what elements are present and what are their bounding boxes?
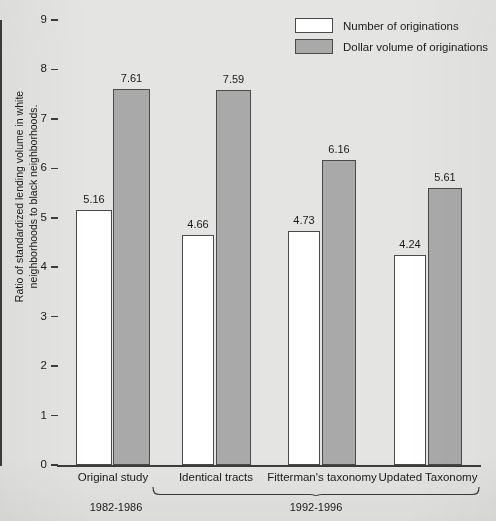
- y-axis-tick-label-7: 7: [17, 113, 47, 125]
- period-brace-1992-1996: [152, 487, 480, 496]
- y-axis-tick-label-5: 5: [17, 212, 47, 224]
- chart-legend: Number of originations Dollar volume of …: [295, 16, 488, 58]
- period-label-1982-1986: 1982-1986: [56, 501, 176, 513]
- y-axis-tick-label-6: 6: [17, 162, 47, 174]
- y-axis-tick-label-3: 3: [17, 311, 47, 323]
- legend-swatch-white: [295, 18, 333, 33]
- bar-value-label-dollar-1: 7.59: [209, 74, 259, 85]
- legend-label-dollar-volume-of-originations: Dollar volume of originations: [343, 41, 488, 53]
- bar-number-3[interactable]: [394, 255, 426, 465]
- legend-item-number-of-originations: Number of originations: [295, 16, 488, 35]
- y-axis-line: [0, 20, 2, 466]
- bar-value-label-number-0: 5.16: [69, 194, 119, 205]
- y-axis-tick-label-1: 1: [17, 410, 47, 422]
- y-axis-tick-label-0: 0: [17, 459, 47, 471]
- bar-value-label-dollar-2: 6.16: [314, 144, 364, 155]
- y-axis-tick-label-9: 9: [17, 14, 47, 26]
- bar-dollar-1[interactable]: [216, 90, 251, 465]
- bar-number-2[interactable]: [288, 231, 320, 465]
- bar-dollar-0[interactable]: [113, 89, 150, 465]
- legend-label-number-of-originations: Number of originations: [343, 20, 459, 32]
- y-axis-tick-label-4: 4: [17, 261, 47, 273]
- bar-value-label-dollar-3: 5.61: [420, 172, 470, 183]
- legend-swatch-gray: [295, 39, 333, 54]
- bar-dollar-3[interactable]: [428, 188, 462, 465]
- period-label-1992-1996: 1992-1996: [256, 501, 376, 513]
- x-axis-category-label-3: Updated Taxonomy: [358, 471, 496, 484]
- bar-number-1[interactable]: [182, 235, 214, 465]
- y-axis-title: Ratio of standardized lending volume in …: [13, 63, 40, 331]
- x-axis-line: [57, 465, 481, 467]
- bar-dollar-2[interactable]: [322, 160, 356, 465]
- legend-item-dollar-volume-of-originations: Dollar volume of originations: [295, 37, 488, 56]
- bar-chart-figure: Ratio of standardized lending volume in …: [0, 0, 496, 521]
- bar-number-0[interactable]: [76, 210, 112, 465]
- bar-value-label-dollar-0: 7.61: [107, 73, 157, 84]
- y-axis-tick-label-8: 8: [17, 63, 47, 75]
- y-axis-tick-label-2: 2: [17, 360, 47, 372]
